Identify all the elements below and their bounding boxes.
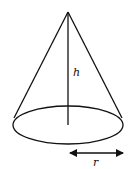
cone-diagram: h r bbox=[0, 0, 134, 169]
radius-label: r bbox=[93, 156, 99, 169]
cone-right-side bbox=[68, 12, 122, 118]
height-label: h bbox=[73, 66, 80, 79]
cone-left-side bbox=[14, 12, 68, 118]
